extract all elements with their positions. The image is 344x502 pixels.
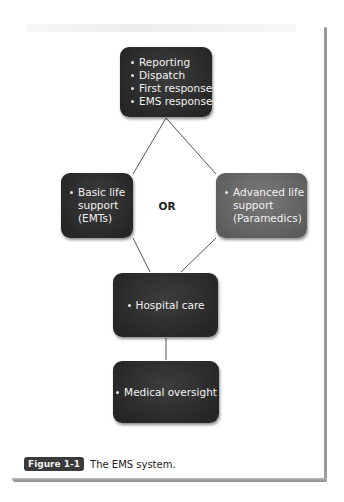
list-item: Hospital care <box>127 299 205 312</box>
list-item: EMS response <box>130 95 212 108</box>
node-hospital-care: Hospital care <box>113 273 218 337</box>
continuation-line: support <box>69 199 133 212</box>
node-medical-oversight: Medical oversight <box>113 361 219 423</box>
basic-life-support-list: Basic life <box>69 186 133 199</box>
ems-activities-list: Reporting Dispatch First response EMS re… <box>130 56 212 108</box>
continuation-line: (Paramedics) <box>224 212 307 225</box>
figure-caption: Figure 1-1 The EMS system. <box>24 457 176 471</box>
list-item: Advanced life <box>224 186 307 199</box>
node-advanced-life-support: Advanced life support (Paramedics) <box>216 173 307 238</box>
list-item: Reporting <box>130 56 212 69</box>
line-advanced-to-hospital <box>181 238 216 272</box>
node-ems-activities: Reporting Dispatch First response EMS re… <box>120 47 212 117</box>
node-basic-life-support: Basic life support (EMTs) <box>61 173 133 238</box>
figure-caption-text: The EMS system. <box>90 459 176 470</box>
figure-label-badge: Figure 1-1 <box>24 457 84 471</box>
line-top-to-advanced <box>166 118 216 174</box>
list-item: Dispatch <box>130 69 212 82</box>
continuation-line: support <box>224 199 307 212</box>
list-item: First response <box>130 82 212 95</box>
list-item: Basic life <box>69 186 133 199</box>
or-label: OR <box>156 200 178 212</box>
advanced-life-support-list: Advanced life <box>224 186 307 199</box>
line-basic-to-hospital <box>133 238 150 272</box>
line-top-to-basic <box>133 118 166 174</box>
continuation-line: (EMTs) <box>69 212 133 225</box>
medical-oversight-list: Medical oversight <box>115 386 217 399</box>
list-item: Medical oversight <box>115 386 217 399</box>
hospital-care-list: Hospital care <box>127 299 205 312</box>
